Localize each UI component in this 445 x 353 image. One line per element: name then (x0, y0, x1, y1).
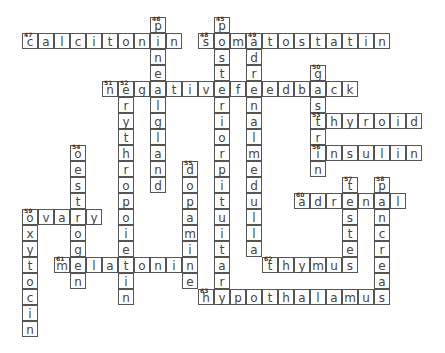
crossword-cell[interactable]: i (166, 257, 182, 273)
crossword-cell[interactable]: i (118, 225, 134, 241)
crossword-cell[interactable]: i (390, 145, 406, 161)
crossword-cell[interactable]: b (294, 81, 310, 97)
crossword-cell[interactable]: i (86, 33, 102, 49)
crossword-cell[interactable]: m61 (54, 257, 70, 273)
crossword-cell[interactable]: a (214, 257, 230, 273)
crossword-cell[interactable]: n (182, 257, 198, 273)
crossword-cell[interactable]: m (342, 289, 358, 305)
crossword-cell[interactable]: t (118, 129, 134, 145)
crossword-cell[interactable]: i (390, 113, 406, 129)
crossword-cell[interactable]: r (246, 65, 262, 81)
crossword-cell[interactable]: e52 (118, 81, 134, 97)
crossword-cell[interactable]: s (342, 145, 358, 161)
crossword-cell[interactable]: i (22, 305, 38, 321)
crossword-cell[interactable]: s (214, 49, 230, 65)
crossword-cell[interactable]: t (118, 257, 134, 273)
crossword-cell[interactable]: n (70, 273, 86, 289)
crossword-cell[interactable]: u (214, 209, 230, 225)
crossword-cell[interactable]: p46 (150, 17, 166, 33)
crossword-cell[interactable]: a (326, 33, 342, 49)
crossword-cell[interactable]: e (246, 81, 262, 97)
crossword-cell[interactable]: k (342, 81, 358, 97)
crossword-cell[interactable]: n (118, 289, 134, 305)
crossword-cell[interactable]: u (358, 289, 374, 305)
crossword-cell[interactable]: r (358, 113, 374, 129)
crossword-cell[interactable]: o (214, 129, 230, 145)
crossword-cell[interactable]: n (358, 193, 374, 209)
crossword-cell[interactable]: m (246, 145, 262, 161)
crossword-cell[interactable]: l (310, 289, 326, 305)
crossword-cell[interactable]: s (342, 209, 358, 225)
crossword-cell[interactable]: l (390, 193, 406, 209)
crossword-cell[interactable]: y (342, 113, 358, 129)
crossword-cell[interactable]: a (102, 257, 118, 273)
crossword-cell[interactable]: n (326, 145, 342, 161)
crossword-cell[interactable]: m (230, 33, 246, 49)
crossword-cell[interactable]: n51 (102, 81, 118, 97)
crossword-cell[interactable]: h (326, 113, 342, 129)
crossword-cell[interactable]: g (150, 113, 166, 129)
crossword-cell[interactable]: n (374, 33, 390, 49)
crossword-cell[interactable]: t (214, 241, 230, 257)
crossword-cell[interactable]: n (150, 161, 166, 177)
crossword-cell[interactable]: e (246, 161, 262, 177)
crossword-cell[interactable]: l (374, 145, 390, 161)
crossword-cell[interactable]: o (134, 257, 150, 273)
crossword-cell[interactable]: a (150, 81, 166, 97)
crossword-cell[interactable]: r (214, 145, 230, 161)
crossword-cell[interactable]: i56 (310, 145, 326, 161)
crossword-cell[interactable]: o (118, 33, 134, 49)
crossword-cell[interactable]: m (310, 257, 326, 273)
crossword-cell[interactable]: h (278, 257, 294, 273)
crossword-cell[interactable]: h (278, 289, 294, 305)
crossword-cell[interactable]: p (118, 193, 134, 209)
crossword-cell[interactable]: e (150, 65, 166, 81)
crossword-cell[interactable]: s (342, 257, 358, 273)
crossword-cell[interactable]: a (374, 273, 390, 289)
crossword-cell[interactable]: s (374, 289, 390, 305)
crossword-cell[interactable]: u (326, 257, 342, 273)
crossword-cell[interactable]: s (294, 33, 310, 49)
crossword-cell[interactable]: o (214, 33, 230, 49)
crossword-cell[interactable]: o (22, 273, 38, 289)
crossword-cell[interactable]: u (358, 145, 374, 161)
crossword-cell[interactable]: o59 (22, 209, 38, 225)
crossword-cell[interactable]: i (214, 177, 230, 193)
crossword-cell[interactable]: a (150, 145, 166, 161)
crossword-cell[interactable]: r (118, 97, 134, 113)
crossword-cell[interactable]: t (102, 33, 118, 49)
crossword-cell[interactable]: l (150, 129, 166, 145)
crossword-cell[interactable]: l (246, 209, 262, 225)
crossword-cell[interactable]: e (70, 161, 86, 177)
crossword-cell[interactable]: d (246, 49, 262, 65)
crossword-cell[interactable]: t (342, 33, 358, 49)
crossword-cell[interactable]: r (326, 193, 342, 209)
crossword-cell[interactable]: d (246, 177, 262, 193)
crossword-cell[interactable]: o (118, 177, 134, 193)
crossword-cell[interactable]: o (278, 33, 294, 49)
crossword-cell[interactable]: l (246, 129, 262, 145)
crossword-cell[interactable]: m (182, 225, 198, 241)
crossword-cell[interactable]: s48 (198, 33, 214, 49)
crossword-cell[interactable]: s (70, 177, 86, 193)
crossword-cell[interactable]: y (118, 113, 134, 129)
crossword-cell[interactable]: g (70, 241, 86, 257)
crossword-cell[interactable]: y (22, 241, 38, 257)
crossword-cell[interactable]: n (150, 49, 166, 65)
crossword-cell[interactable]: g50 (310, 65, 326, 81)
crossword-cell[interactable]: i (150, 33, 166, 49)
crossword-cell[interactable]: c (326, 81, 342, 97)
crossword-cell[interactable]: o (246, 289, 262, 305)
crossword-cell[interactable]: i (182, 241, 198, 257)
crossword-cell[interactable]: r (118, 161, 134, 177)
crossword-cell[interactable]: v (38, 209, 54, 225)
crossword-cell[interactable]: n (166, 33, 182, 49)
crossword-cell[interactable]: a (326, 289, 342, 305)
crossword-cell[interactable]: f (230, 81, 246, 97)
crossword-cell[interactable]: u (246, 193, 262, 209)
crossword-cell[interactable]: t (262, 289, 278, 305)
crossword-cell[interactable]: l (246, 225, 262, 241)
crossword-cell[interactable]: a (54, 209, 70, 225)
crossword-cell[interactable]: g (134, 81, 150, 97)
crossword-cell[interactable]: c47 (22, 33, 38, 49)
